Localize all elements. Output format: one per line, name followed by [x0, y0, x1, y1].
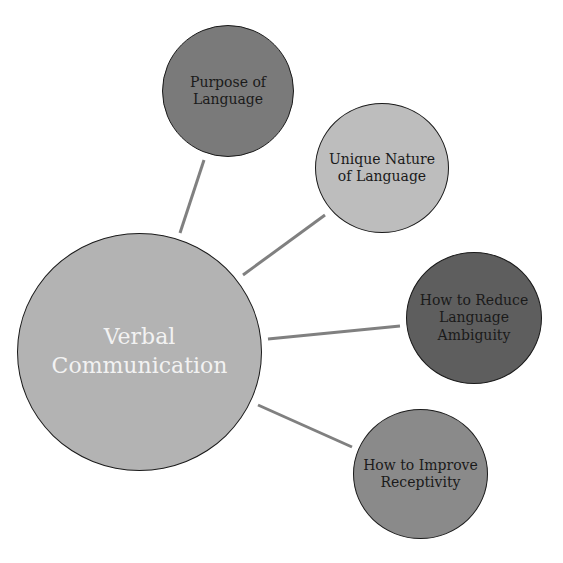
center-node-label: Verbal Communication	[52, 323, 228, 380]
label-line: Unique Nature	[329, 151, 435, 167]
label-line: of Language	[338, 168, 426, 184]
branch-label-reduce: How to Reduce Language Ambiguity	[412, 292, 537, 345]
connector-unique	[243, 215, 325, 275]
center-label-line-1: Verbal	[104, 324, 176, 349]
label-line: Language	[439, 309, 509, 325]
center-label-line-2: Communication	[52, 353, 228, 378]
connector-purpose	[180, 160, 204, 233]
branch-label-improve: How to Improve Receptivity	[355, 457, 486, 492]
label-line: Ambiguity	[438, 327, 511, 343]
label-line: Purpose of	[190, 74, 266, 90]
label-line: Receptivity	[381, 474, 461, 490]
connector-reduce	[268, 326, 400, 339]
branch-node-reduce: How to Reduce Language Ambiguity	[406, 252, 542, 384]
branch-label-unique: Unique Nature of Language	[321, 151, 443, 186]
branch-node-improve: How to Improve Receptivity	[353, 409, 488, 539]
branch-node-purpose: Purpose of Language	[162, 25, 294, 157]
label-line: How to Improve	[363, 457, 478, 473]
branch-node-unique: Unique Nature of Language	[315, 103, 449, 233]
center-node-verbal-communication: Verbal Communication	[17, 233, 262, 471]
label-line: Language	[193, 91, 263, 107]
branch-label-purpose: Purpose of Language	[182, 74, 274, 109]
label-line: How to Reduce	[420, 292, 529, 308]
connector-improve	[258, 405, 352, 447]
